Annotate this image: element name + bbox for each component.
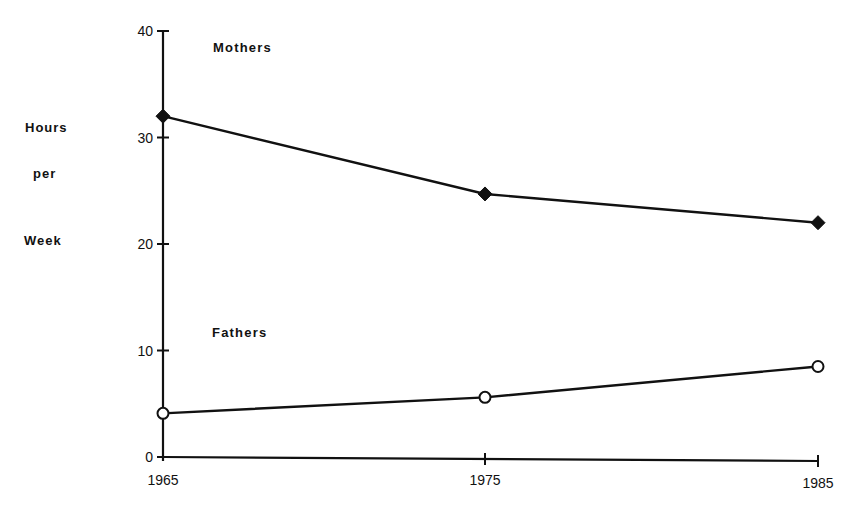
series-line-mothers — [163, 116, 818, 223]
line-chart: 010203040196519751985 — [0, 0, 859, 514]
x-tick-label: 1985 — [802, 475, 833, 491]
diamond-marker — [478, 187, 492, 201]
series-group — [156, 109, 825, 419]
y-tick-label: 20 — [137, 236, 153, 252]
y-tick-label: 30 — [137, 130, 153, 146]
series-line-fathers — [163, 366, 818, 413]
x-tick-label: 1965 — [147, 472, 178, 488]
x-axis-line — [163, 457, 818, 461]
circle-marker — [813, 361, 824, 372]
y-tick-label: 10 — [137, 343, 153, 359]
y-tick-label: 40 — [137, 23, 153, 39]
diamond-marker — [811, 216, 825, 230]
circle-marker — [158, 408, 169, 419]
axes: 010203040196519751985 — [137, 23, 833, 491]
x-tick-label: 1975 — [469, 472, 500, 488]
y-tick-label: 0 — [145, 449, 153, 465]
circle-marker — [480, 392, 491, 403]
diamond-marker — [156, 109, 170, 123]
